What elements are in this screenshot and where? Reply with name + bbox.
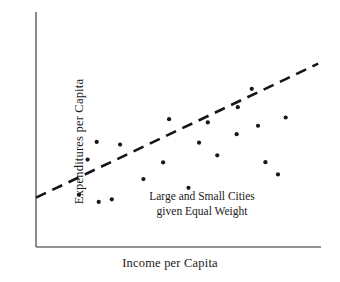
x-axis-label: Income per Capita	[0, 256, 340, 271]
scatter-plot-figure: Income per Capita Expenditures per Capit…	[0, 0, 340, 282]
data-point	[235, 132, 239, 136]
data-point	[250, 87, 254, 91]
data-point	[284, 115, 288, 119]
data-point	[141, 177, 145, 181]
data-point	[256, 124, 260, 128]
trend-line-group	[36, 64, 318, 198]
data-point	[97, 200, 101, 204]
annotation-line-2: given Equal Weight	[137, 204, 267, 219]
data-point	[167, 117, 171, 121]
data-point	[197, 141, 201, 145]
data-point	[85, 157, 89, 161]
data-point	[118, 142, 122, 146]
data-points-group	[77, 87, 288, 204]
annotation-line-1: Large and Small Cities	[137, 189, 267, 204]
data-point	[77, 193, 81, 197]
data-point	[110, 197, 114, 201]
data-point	[161, 160, 165, 164]
trend-line	[36, 64, 318, 198]
data-point	[95, 140, 99, 144]
data-point	[236, 105, 240, 109]
data-point	[215, 153, 219, 157]
data-point	[206, 120, 210, 124]
data-point	[263, 160, 267, 164]
plot-annotation: Large and Small Cities given Equal Weigh…	[137, 189, 267, 219]
plot-canvas	[0, 0, 340, 282]
data-point	[276, 172, 280, 176]
